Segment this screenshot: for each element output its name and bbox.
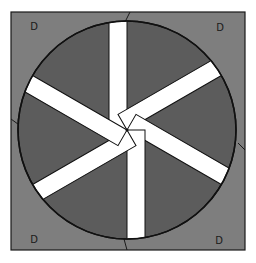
corner-label-bottom-right: D [215, 235, 223, 246]
diagram-canvas: D D D D [0, 0, 256, 263]
hub-point [126, 129, 129, 132]
corner-label-bottom-left: D [30, 234, 38, 245]
corner-label-top-left: D [30, 21, 38, 32]
corner-label-top-right: D [216, 22, 224, 33]
spoke-wheel-diagram: D D D D [0, 0, 256, 263]
